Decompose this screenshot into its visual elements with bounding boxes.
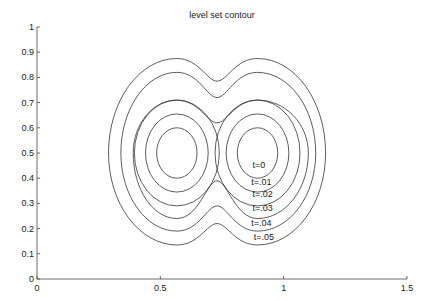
x-tick-label: 0: [34, 283, 39, 293]
contour-t=.01-lobe-left: [146, 114, 209, 192]
contour-label: t=0: [253, 160, 266, 170]
contour-t=0-lobe-left: [157, 128, 197, 178]
axes: 00.10.20.30.40.50.60.70.80.91 00.511.5: [21, 22, 413, 293]
y-tick-label: 0.9: [21, 47, 34, 57]
y-tick-label: 0.3: [21, 198, 34, 208]
contour-label: t=.05: [254, 232, 274, 242]
contour-figure: level set contour 00.10.20.30.40.50.60.7…: [0, 0, 429, 301]
contour-t=.05: [109, 59, 326, 245]
y-tick-label: 1: [29, 22, 34, 32]
y-tick-label: 0.6: [21, 123, 34, 133]
y-tick-label: 0.1: [21, 249, 34, 259]
y-tick-label: 0.4: [21, 173, 34, 183]
contour-label: t=.03: [253, 203, 273, 213]
contour-label: t=.02: [253, 189, 273, 199]
x-tick-label: 1.5: [401, 283, 414, 293]
contour-label: t=.04: [251, 218, 271, 228]
y-tick-label: 0.2: [21, 224, 34, 234]
contour-t=.03: [133, 100, 308, 218]
x-tick-label: 0.5: [154, 283, 167, 293]
y-tick-label: 0.5: [21, 148, 34, 158]
contour-t=0-lobe-right: [237, 128, 277, 178]
y-tick-label: 0.8: [21, 72, 34, 82]
x-ticks: 00.511.5: [34, 276, 413, 293]
x-tick-label: 1: [281, 283, 286, 293]
y-tick-label: 0.7: [21, 98, 34, 108]
y-tick-label: 0: [29, 274, 34, 284]
contour-lines: [109, 59, 326, 245]
chart-title: level set contour: [189, 10, 255, 20]
contour-label: t=.01: [251, 177, 271, 187]
